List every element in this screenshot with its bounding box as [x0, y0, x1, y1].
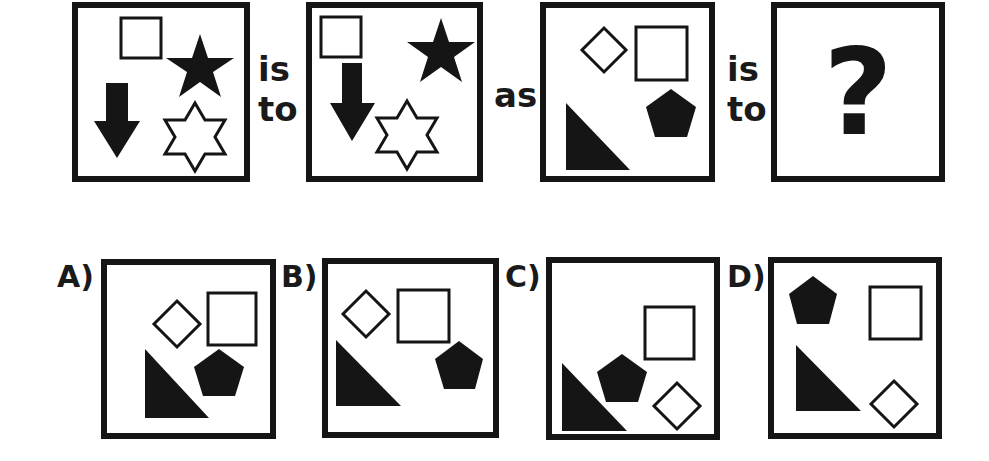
outline-six-point-star-shape	[377, 101, 437, 169]
diamond-outline-shape	[654, 383, 700, 429]
connector-to: to	[727, 92, 767, 126]
option-c-label: C)	[505, 262, 541, 292]
connector-is: is	[727, 52, 759, 86]
down-arrow-shape	[94, 83, 140, 158]
option-a-label: A)	[57, 262, 94, 292]
filled-pentagon-shape	[789, 276, 837, 324]
unknown-answer-box: ?	[771, 2, 945, 182]
down-arrow-shape	[330, 63, 375, 141]
diamond-outline-shape	[154, 301, 200, 347]
filled-pentagon-shape	[435, 341, 483, 389]
outline-six-point-star-shape	[165, 103, 225, 171]
example-box-2	[306, 2, 483, 182]
square-outline-shape	[870, 287, 921, 339]
filled-pentagon-shape	[194, 349, 244, 396]
question-mark: ?	[777, 8, 939, 176]
connector-is: is	[258, 52, 290, 86]
filled-right-triangle-shape	[796, 345, 861, 411]
connector-to: to	[258, 92, 298, 126]
option-b[interactable]	[322, 258, 499, 438]
option-c[interactable]	[546, 257, 720, 440]
square-outline-shape	[208, 293, 256, 345]
filled-pentagon-shape	[597, 354, 647, 402]
filled-pentagon-shape	[646, 89, 696, 137]
filled-star-shape	[166, 34, 234, 97]
diamond-outline-shape	[871, 381, 917, 427]
square-outline-shape	[636, 27, 687, 80]
filled-right-triangle-shape	[336, 340, 401, 406]
square-outline-shape	[645, 307, 694, 359]
square-outline-shape	[321, 17, 361, 57]
square-outline-shape	[398, 290, 449, 342]
option-d-label: D)	[727, 262, 766, 292]
diamond-outline-shape	[582, 28, 626, 72]
option-a[interactable]	[101, 259, 276, 439]
square-outline-shape	[121, 18, 161, 58]
diamond-outline-shape	[343, 291, 389, 337]
filled-star-shape	[407, 18, 475, 82]
connector-as: as	[494, 78, 537, 112]
example-box-3	[540, 2, 715, 182]
example-box-1	[72, 2, 250, 182]
filled-right-triangle-shape	[566, 103, 630, 170]
option-b-label: B)	[281, 262, 318, 292]
option-d[interactable]	[768, 257, 942, 439]
